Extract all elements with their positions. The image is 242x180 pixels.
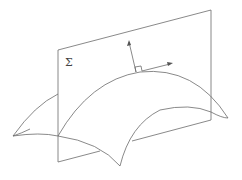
plane-sigma	[58, 10, 211, 162]
right-angle-marker	[135, 66, 142, 72]
plane-label: Σ	[65, 56, 73, 69]
curved-surface	[13, 71, 228, 166]
tangent-vector	[142, 62, 173, 71]
surface-plane-diagram: Σ	[0, 0, 242, 180]
